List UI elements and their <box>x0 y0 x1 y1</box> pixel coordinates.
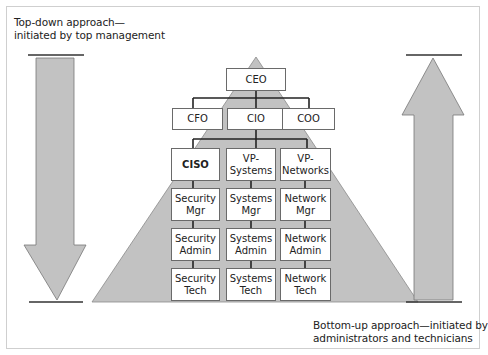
org-box-cfo: CFO <box>172 108 223 130</box>
org-box-network-tech: Network Tech <box>280 268 331 301</box>
bottom-up-caption: Bottom-up approach—initiated by administ… <box>313 319 488 345</box>
top-down-caption: Top-down approach— initiated by top mana… <box>14 16 165 42</box>
org-box-systems-tech: Systems Tech <box>226 268 276 301</box>
bottom-up-arrow-icon <box>402 55 464 302</box>
org-box-ciso: CISO <box>171 148 220 181</box>
org-box-systems-admin: Systems Admin <box>226 228 276 261</box>
org-box-vp-networks: VP- Networks <box>280 148 331 181</box>
org-box-cio: CIO <box>227 108 285 130</box>
org-box-security-mgr: Security Mgr <box>171 188 220 221</box>
org-box-network-mgr: Network Mgr <box>280 188 331 221</box>
org-box-coo: COO <box>282 108 335 130</box>
org-box-security-tech: Security Tech <box>171 268 220 301</box>
org-box-systems-mgr: Systems Mgr <box>226 188 276 221</box>
org-box-security-admin: Security Admin <box>171 228 220 261</box>
org-box-vp-systems: VP- Systems <box>226 148 276 181</box>
org-box-network-admin: Network Admin <box>280 228 331 261</box>
top-down-arrow-icon <box>24 55 86 302</box>
org-box-ceo: CEO <box>226 68 286 91</box>
